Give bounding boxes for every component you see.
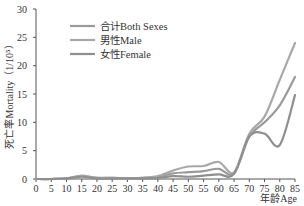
x-tick-label: 45: [168, 183, 178, 194]
x-tick-label: 40: [153, 183, 163, 194]
y-tick-label: 5: [22, 145, 27, 156]
y-tick-label: 10: [17, 117, 27, 128]
x-tick-label: 70: [244, 183, 254, 194]
x-tick-label: 5: [49, 183, 54, 194]
x-axis: 0510152025303540455055606570758085: [34, 179, 301, 194]
legend-label: 男性Male: [100, 34, 142, 46]
x-tick-label: 65: [229, 183, 239, 194]
series-lines: [36, 43, 295, 179]
x-tick-label: 50: [183, 183, 193, 194]
x-tick-label: 55: [199, 183, 209, 194]
legend: 合计Both Sexes男性Male女性Female: [70, 20, 168, 60]
y-tick-label: 25: [17, 32, 27, 43]
x-axis-title: 年龄Age: [260, 192, 297, 204]
y-tick-label: 30: [17, 4, 27, 15]
x-tick-label: 0: [34, 183, 39, 194]
mortality-line-chart: 051015202530 051015202530354045505560657…: [0, 0, 304, 206]
x-tick-label: 15: [77, 183, 87, 194]
x-tick-label: 35: [138, 183, 148, 194]
y-axis: 051015202530: [17, 4, 36, 185]
x-tick-label: 25: [107, 183, 117, 194]
y-tick-label: 15: [17, 89, 27, 100]
y-axis-title: 死亡率Mortality（1/10⁵）: [3, 39, 15, 148]
legend-label: 合计Both Sexes: [100, 20, 168, 32]
series-line-0: [36, 77, 295, 179]
series-line-2: [36, 95, 295, 179]
series-line-1: [36, 43, 295, 179]
y-tick-label: 20: [17, 60, 27, 71]
x-tick-label: 10: [61, 183, 71, 194]
x-tick-label: 20: [92, 183, 102, 194]
y-tick-label: 0: [22, 174, 27, 185]
x-tick-label: 30: [122, 183, 132, 194]
x-tick-label: 60: [214, 183, 224, 194]
legend-label: 女性Female: [100, 48, 151, 60]
